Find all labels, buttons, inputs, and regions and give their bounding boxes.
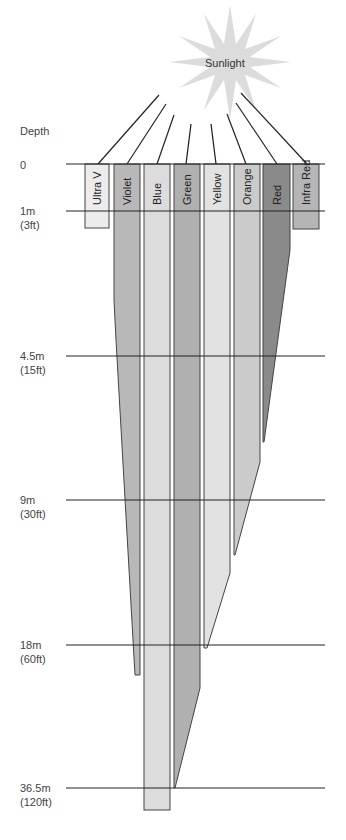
band-green: [174, 164, 200, 788]
depth-title: Depth: [20, 125, 49, 137]
label-orange: Orange: [241, 168, 253, 205]
depth-label-9m: 9m (30ft): [20, 493, 46, 521]
depth-ft: (30ft): [20, 507, 46, 521]
sun-rays: [98, 93, 307, 164]
sunlight-label: Sunlight: [205, 57, 245, 69]
depth-ft: (120ft): [20, 795, 52, 809]
depth-m: 1m: [20, 204, 40, 218]
depth-m: 18m: [20, 638, 46, 652]
light-depth-diagram: Ultra V Violet Blue Green Yellow Orange …: [0, 0, 346, 840]
depth-ft: (60ft): [20, 652, 46, 666]
depth-label-4-5m: 4.5m (15ft): [20, 349, 46, 377]
depth-m: 0: [20, 158, 26, 172]
depth-m: 36.5m: [20, 781, 52, 795]
label-infra-red: Infra Red: [300, 160, 312, 205]
depth-label-0: 0: [20, 158, 26, 172]
depth-m: 4.5m: [20, 349, 46, 363]
depth-label-1m: 1m (3ft): [20, 204, 40, 232]
label-green: Green: [181, 174, 193, 205]
label-ultra-v: Ultra V: [91, 171, 103, 205]
band-orange: [234, 164, 260, 555]
depth-ft: (15ft): [20, 363, 46, 377]
depth-ft: (3ft): [20, 218, 40, 232]
band-yellow: [204, 164, 230, 648]
light-bands: [85, 164, 319, 810]
label-blue: Blue: [151, 183, 163, 205]
label-yellow: Yellow: [211, 174, 223, 205]
label-violet: Violet: [121, 178, 133, 205]
band-violet: [114, 164, 140, 675]
label-red: Red: [271, 185, 283, 205]
depth-label-18m: 18m (60ft): [20, 638, 46, 666]
band-blue: [144, 164, 170, 810]
depth-label-36-5m: 36.5m (120ft): [20, 781, 52, 809]
depth-m: 9m: [20, 493, 46, 507]
